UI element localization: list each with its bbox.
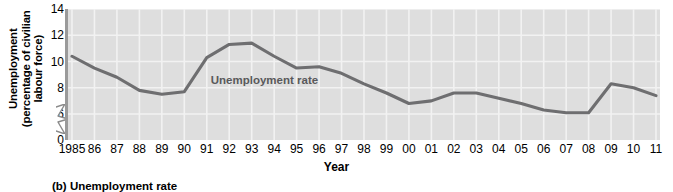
x-tick-07: 07 (559, 142, 572, 156)
x-tick-93: 93 (245, 142, 258, 156)
unemployment-rate-chart-figure: Unemployment (percentage of civilian lab… (0, 0, 673, 192)
x-tick-08: 08 (582, 142, 595, 156)
x-tick-91: 91 (200, 142, 213, 156)
x-tick-01: 01 (425, 142, 438, 156)
x-tick-97: 97 (335, 142, 348, 156)
y-tick-10: 10 (42, 56, 64, 68)
series-annotation-label: Unemployment rate (211, 74, 318, 86)
chart-svg (68, 9, 660, 140)
x-tick-99: 99 (380, 142, 393, 156)
y-axis-label-line-1: Unemployment (7, 0, 20, 143)
x-tick-92: 92 (223, 142, 236, 156)
gridlines (68, 9, 660, 140)
x-tick-05: 05 (515, 142, 528, 156)
y-tick-14: 14 (42, 3, 64, 15)
x-axis-label: Year (0, 160, 673, 174)
x-tick-10: 10 (627, 142, 640, 156)
x-tick-11: 11 (650, 142, 662, 156)
x-tick-95: 95 (290, 142, 303, 156)
y-axis-label-line-2: (percentage of civilian (20, 0, 33, 143)
y-tick-12: 12 (42, 29, 64, 41)
x-tick-04: 04 (492, 142, 505, 156)
x-tick-03: 03 (470, 142, 483, 156)
x-tick-94: 94 (267, 142, 280, 156)
x-tick-00: 00 (402, 142, 415, 156)
x-tick-86: 86 (88, 142, 101, 156)
x-tick-90: 90 (178, 142, 191, 156)
x-tick-89: 89 (155, 142, 168, 156)
x-axis-tick-labels: 1985868788899091929394959697989900010203… (0, 142, 673, 158)
plot-area (68, 9, 660, 140)
figure-caption: (b) Unemployment rate (52, 180, 177, 192)
x-tick-88: 88 (133, 142, 146, 156)
x-tick-09: 09 (604, 142, 617, 156)
x-tick-06: 06 (537, 142, 550, 156)
x-tick-98: 98 (357, 142, 370, 156)
y-tick-8: 8 (42, 82, 64, 94)
x-tick-96: 96 (312, 142, 325, 156)
y-axis-spine (65, 9, 68, 140)
x-tick-02: 02 (447, 142, 460, 156)
x-tick-1985: 1985 (59, 142, 86, 156)
x-tick-87: 87 (110, 142, 123, 156)
